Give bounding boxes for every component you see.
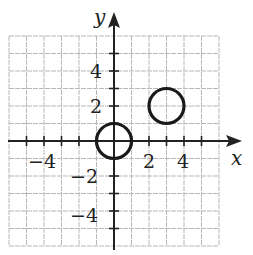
x-tick-label-neg4: −4 xyxy=(28,150,56,172)
axes xyxy=(8,12,242,250)
y-tick-label-neg4: −4 xyxy=(70,204,98,226)
x-tick-label-4: 4 xyxy=(177,150,189,172)
y-tick-label-2: 2 xyxy=(90,95,102,117)
y-tick-label-neg2: −2 xyxy=(70,165,98,187)
x-tick-label-2: 2 xyxy=(143,150,155,172)
coordinate-plane: x y −4 2 4 4 2 −2 −4 xyxy=(0,0,253,255)
y-axis-label: y xyxy=(93,5,106,29)
x-axis-label: x xyxy=(231,146,242,170)
plotted-circles xyxy=(97,89,185,159)
y-tick-label-4: 4 xyxy=(90,60,102,82)
